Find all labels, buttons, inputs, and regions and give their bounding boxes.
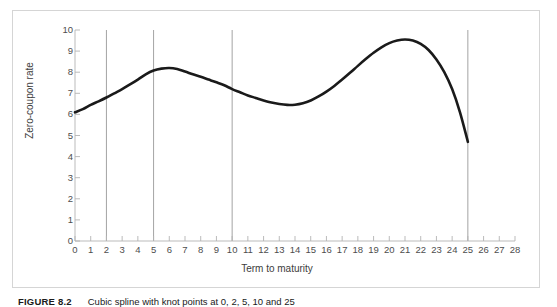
y-tick-label-6: 6 — [51, 109, 73, 119]
figure-caption-label: FIGURE 8.2 — [18, 296, 72, 307]
y-tick-label-4: 4 — [51, 152, 73, 162]
plot-stage: 012345678910 012345678910111213141516171… — [13, 11, 541, 289]
y-tick-label-7: 7 — [51, 88, 73, 98]
figure-caption-text: Cubic spline with knot points at 0, 2, 5… — [88, 296, 295, 307]
y-tick-label-3: 3 — [51, 173, 73, 183]
y-tick-label-10: 10 — [51, 25, 73, 35]
x-tick-label-28: 28 — [502, 245, 528, 255]
y-tick-label-1: 1 — [51, 215, 73, 225]
figure-caption: FIGURE 8.2Cubic spline with knot points … — [18, 296, 548, 307]
figure-root: 012345678910 012345678910111213141516171… — [0, 0, 557, 307]
y-tick-label-9: 9 — [51, 46, 73, 56]
figure-panel: 012345678910 012345678910111213141516171… — [12, 10, 540, 288]
y-tick-group — [75, 30, 80, 241]
knot-line-group — [106, 30, 467, 241]
axis-group — [75, 30, 515, 241]
y-tick-label-5: 5 — [51, 131, 73, 141]
x-axis-title: Term to maturity — [13, 263, 541, 274]
y-tick-label-2: 2 — [51, 194, 73, 204]
data-line-group — [75, 39, 468, 141]
x-axis-tick-labels: 0123456789101112131415161718192021222324… — [13, 245, 541, 259]
y-axis-title: Zero-coupon rate — [24, 41, 35, 161]
y-tick-label-8: 8 — [51, 67, 73, 77]
data-line-0 — [75, 39, 468, 141]
x-tick-group — [75, 236, 515, 241]
